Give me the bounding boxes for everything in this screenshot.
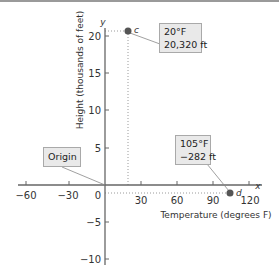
x-tick-labels: −60 −30 0 30 60 90 120 <box>15 190 259 206</box>
svg-text:60: 60 <box>171 195 184 206</box>
leader-lines <box>62 33 229 191</box>
svg-text:−30: −30 <box>57 190 78 201</box>
point-c <box>125 28 132 35</box>
svg-text:120: 120 <box>240 195 259 206</box>
svg-text:5: 5 <box>95 143 101 154</box>
svg-text:20: 20 <box>88 31 101 42</box>
callout-c: 20°F 20,320 ft <box>159 23 202 53</box>
callout-d-height: −282 ft <box>180 150 206 163</box>
x-axis-var: x <box>254 181 261 191</box>
point-d <box>227 190 234 197</box>
callout-origin-text: Origin <box>48 149 76 165</box>
callout-c-temp: 20°F <box>164 25 197 38</box>
svg-text:90: 90 <box>207 195 220 206</box>
x-axis-title: Temperature (degrees F) <box>159 210 271 220</box>
callout-origin: Origin <box>43 147 81 167</box>
svg-text:−60: −60 <box>15 190 36 201</box>
d-leader <box>207 164 229 191</box>
svg-text:15: 15 <box>88 68 101 79</box>
coordinate-plane: −60 −30 0 30 60 90 120 20 15 10 5 −5 −10… <box>0 0 279 279</box>
svg-text:10: 10 <box>88 105 101 116</box>
callout-d-temp: 105°F <box>180 137 206 150</box>
svg-text:0: 0 <box>95 190 101 201</box>
callout-c-height: 20,320 ft <box>164 38 197 51</box>
svg-text:30: 30 <box>135 195 148 206</box>
point-d-label: d <box>236 188 242 198</box>
svg-text:−10: −10 <box>80 254 101 265</box>
origin-leader <box>62 167 105 185</box>
svg-text:−5: −5 <box>86 217 101 228</box>
callout-d: 105°F −282 ft <box>175 135 211 165</box>
y-axis-title: Height (thousands of feet) <box>75 11 85 130</box>
y-axis-var: y <box>99 17 106 27</box>
point-c-label: c <box>134 25 139 35</box>
